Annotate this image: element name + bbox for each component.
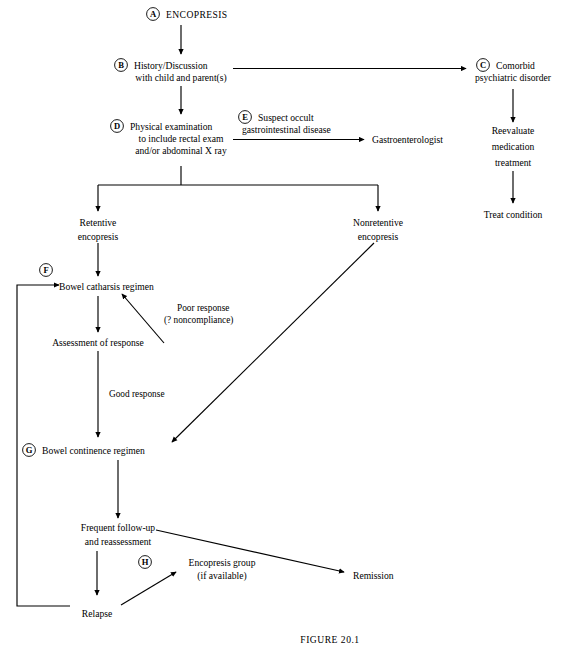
node-followup-line-1: and reassessment (85, 536, 152, 547)
node-bowel-continence-line-0: Bowel continence regimen (42, 445, 145, 456)
node-nonretentive-line-1: encopresis (358, 231, 399, 242)
node-physical-exam-line-1: to include rectal exam (139, 133, 225, 144)
node-remission-line-0: Remission (353, 570, 394, 581)
node-followup-line-0: Frequent follow-up (81, 522, 156, 533)
node-physical-exam-line-0: Physical examination (130, 121, 213, 132)
node-treat-condition-line-0: Treat condition (484, 209, 543, 220)
node-reevaluate-line-2: treatment (495, 157, 532, 168)
node-suspect-occult-line-0: Suspect occult (258, 112, 314, 123)
step-letter-c: C (477, 59, 490, 72)
edge-poor-response-feedback (122, 294, 164, 343)
step-letter-c-text: C (480, 60, 486, 70)
node-encopresis-group-line-0: Encopresis group (189, 557, 256, 568)
step-letter-d-text: D (114, 121, 120, 131)
step-letter-b-text: B (118, 60, 124, 70)
node-encopresis-group-line-1: (if available) (197, 570, 246, 582)
node-retentive-line-0: Retentive (80, 217, 117, 228)
node-physical-exam-line-2: and/or abdominal X ray (135, 145, 227, 156)
edge-relapse-to-encopresis-group (121, 572, 176, 605)
flowchart-svg: A B C D E F G H EN (0, 0, 571, 645)
step-letter-e-text: E (242, 112, 248, 122)
node-reevaluate-line-1: medication (492, 141, 535, 152)
edge-label-good-response: Good response (109, 389, 165, 399)
step-letter-f: F (40, 264, 53, 277)
step-letter-g-text: G (26, 445, 33, 455)
node-nonretentive-line-0: Nonretentive (353, 217, 403, 228)
node-gastroenterologist-line-0: Gastroenterologist (372, 134, 443, 145)
node-comorbid-line-1: psychiatric disorder (475, 72, 552, 83)
node-reevaluate-line-0: Reevaluate (492, 125, 535, 136)
edge-nonretentive-to-bowel-continence (172, 243, 374, 442)
step-letter-g: G (23, 444, 36, 457)
node-history-line-1: with child and parent(s) (135, 72, 226, 84)
node-suspect-occult-line-1: gastrointestinal disease (242, 124, 331, 135)
node-relapse-line-0: Relapse (82, 608, 112, 619)
figure-container: A B C D E F G H EN (0, 0, 571, 645)
node-history-line-0: History/Discussion (134, 60, 208, 71)
node-assessment-line-0: Assessment of response (52, 337, 144, 348)
step-letter-h-text: H (142, 557, 149, 567)
step-letter-d: D (111, 120, 124, 133)
node-retentive-line-1: encopresis (78, 231, 119, 242)
edge-label-poor-response-line-0: Poor response (177, 303, 229, 313)
step-letter-f-text: F (43, 265, 48, 275)
step-letter-a-text: A (150, 9, 157, 19)
node-comorbid-line-0: Comorbid (496, 60, 535, 71)
figure-caption: FIGURE 20.1 (300, 634, 359, 645)
node-bowel-catharsis-line-0: Bowel catharsis regimen (59, 281, 154, 292)
edge-label-poor-response-line-1: (? noncompliance) (164, 315, 233, 326)
step-letter-b: B (115, 59, 128, 72)
node-encopresis-line-0: ENCOPRESIS (166, 9, 228, 20)
step-letter-a: A (147, 8, 160, 21)
step-letter-e: E (239, 111, 252, 124)
step-letter-h: H (139, 556, 152, 569)
